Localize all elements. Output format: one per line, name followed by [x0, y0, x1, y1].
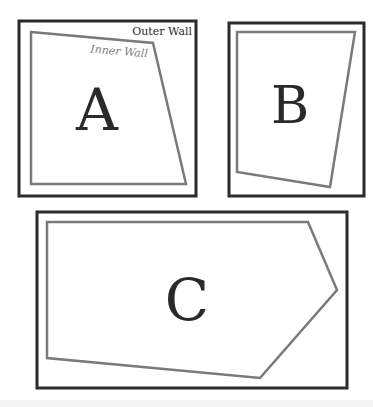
bottom-strip [0, 400, 373, 407]
diagram-canvas: A Outer Wall Inner Wall B C [0, 0, 373, 407]
room-a-label: A [75, 76, 119, 144]
room-b: B [229, 23, 364, 196]
inner-wall-annotation: Inner Wall [89, 42, 149, 60]
room-c: C [37, 212, 347, 388]
room-c-label: C [165, 266, 209, 334]
room-b-label: B [271, 75, 309, 135]
outer-wall-annotation: Outer Wall [132, 25, 192, 38]
wall-diagram: A Outer Wall Inner Wall B C [0, 0, 373, 407]
room-a: A Outer Wall Inner Wall [19, 21, 196, 196]
